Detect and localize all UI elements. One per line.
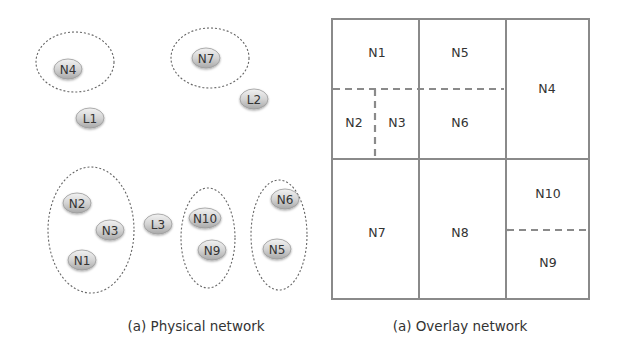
overlay-network-labels: N1N5N4N2N3N6N7N8N10N9 (345, 45, 560, 270)
node-label: L1 (83, 112, 97, 126)
network-node-n4: N4 (54, 59, 82, 79)
node-label: N4 (60, 63, 77, 77)
overlay-cell-n5: N5 (451, 45, 468, 60)
physical-network-nodes: N4L1N7L2N2N3N1L3N10N9N6N5 (54, 48, 299, 270)
overlay-cell-n9: N9 (539, 255, 556, 270)
node-label: N9 (204, 244, 221, 258)
overlay-cell-n8: N8 (451, 225, 468, 240)
cluster-ellipse (181, 188, 235, 288)
network-node-l3: L3 (144, 214, 172, 234)
node-label: N10 (193, 212, 217, 226)
node-label: N3 (102, 224, 119, 238)
network-node-l1: L1 (76, 108, 104, 128)
diagram-canvas: N4L1N7L2N2N3N1L3N10N9N6N5 N1N5N4N2N3N6N7… (0, 0, 622, 358)
network-node-n2: N2 (63, 193, 91, 213)
network-node-n7: N7 (192, 48, 220, 68)
node-label: N5 (269, 243, 286, 257)
node-label: N7 (198, 52, 215, 66)
overlay-cell-n10: N10 (535, 186, 560, 201)
network-node-n10: N10 (189, 208, 221, 228)
overlay-cell-n1: N1 (368, 45, 385, 60)
network-node-n3: N3 (96, 220, 124, 240)
node-label: N2 (69, 197, 86, 211)
node-label: N1 (74, 254, 91, 268)
node-label: L3 (151, 218, 165, 232)
network-node-l2: L2 (240, 89, 268, 109)
overlay-cell-n2: N2 (345, 115, 362, 130)
overlay-cell-n3: N3 (388, 115, 405, 130)
network-node-n1: N1 (68, 250, 96, 270)
overlay-network-caption: (a) Overlay network (393, 318, 528, 334)
overlay-cell-n4: N4 (538, 81, 555, 96)
overlay-cell-n7: N7 (368, 225, 385, 240)
node-label: N6 (277, 193, 294, 207)
node-label: L2 (247, 93, 261, 107)
network-node-n9: N9 (198, 240, 226, 260)
overlay-cell-n6: N6 (451, 115, 468, 130)
network-node-n6: N6 (271, 189, 299, 209)
network-node-n5: N5 (263, 239, 291, 259)
physical-network-caption: (a) Physical network (127, 318, 264, 334)
